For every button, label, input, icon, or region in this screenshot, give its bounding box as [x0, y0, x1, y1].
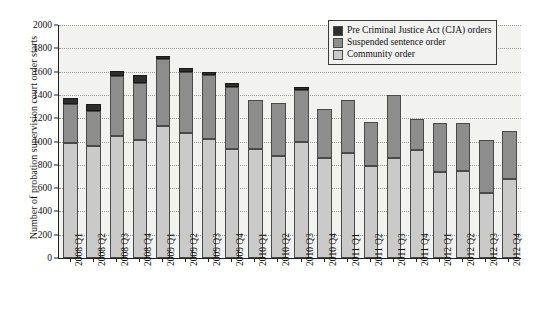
bar-chart: Number of probation supervision court or… — [0, 0, 538, 325]
x-axis-tick-mark — [508, 258, 509, 262]
x-axis-tick-label: 2010 Q4 — [328, 233, 338, 266]
y-axis-tick-label: 1400 — [33, 90, 52, 100]
x-axis-tick-label: 2008 Q2 — [97, 233, 107, 266]
y-axis-tick-label: 600 — [38, 183, 52, 193]
x-axis-tick-mark — [485, 258, 486, 262]
x-axis-tick-label: 2009 Q2 — [189, 233, 199, 266]
bar-segment[interactable] — [133, 75, 147, 84]
legend-item: Suspended sentence order — [333, 37, 491, 48]
bar-segment[interactable] — [156, 59, 170, 126]
x-axis-tick-label: 2008 Q4 — [143, 233, 153, 266]
x-axis-tick-label: 2012 Q3 — [489, 233, 499, 266]
x-axis-tick-mark — [393, 258, 394, 262]
x-axis-tick-mark — [462, 258, 463, 262]
x-axis-tick-label: 2011 Q3 — [397, 233, 407, 266]
bar-group[interactable] — [86, 25, 100, 258]
x-axis-tick-mark — [254, 258, 255, 262]
y-axis-tick-label: 1000 — [33, 137, 52, 147]
bar-segment[interactable] — [317, 109, 331, 158]
bar-group[interactable] — [110, 25, 124, 258]
x-axis-tick-label: 2010 Q3 — [305, 233, 315, 266]
x-axis-tick-label: 2010 Q1 — [258, 233, 268, 266]
y-axis-tick-label: 2000 — [33, 20, 52, 30]
bar-segment[interactable] — [156, 56, 170, 59]
bar-segment[interactable] — [248, 100, 262, 149]
bar-group[interactable] — [294, 25, 308, 258]
bar-group[interactable] — [271, 25, 285, 258]
bar-group[interactable] — [502, 25, 516, 258]
bar-segment[interactable] — [225, 87, 239, 149]
x-axis-tick-mark — [139, 258, 140, 262]
x-axis-tick-mark — [116, 258, 117, 262]
legend-label: Suspended sentence order — [347, 37, 446, 48]
legend-swatch-cja-icon — [333, 26, 343, 36]
bar-segment[interactable] — [294, 90, 308, 141]
bar-segment[interactable] — [364, 122, 378, 166]
x-axis-tick-mark — [416, 258, 417, 262]
x-axis-tick-label: 2012 Q1 — [443, 233, 453, 266]
bar-segment[interactable] — [456, 123, 470, 171]
bar-segment[interactable] — [202, 72, 216, 75]
x-axis-tick-mark — [93, 258, 94, 262]
x-axis-tick-label: 2008 Q3 — [120, 233, 130, 266]
x-axis-tick-mark — [231, 258, 232, 262]
x-axis-tick-label: 2008 Q1 — [74, 233, 84, 266]
bar-group[interactable] — [248, 25, 262, 258]
bar-group[interactable] — [156, 25, 170, 258]
legend-swatch-suspended-icon — [333, 38, 343, 48]
y-axis-tick-label: 400 — [38, 206, 52, 216]
x-axis-tick-label: 2010 Q2 — [281, 233, 291, 266]
legend: Pre Criminal Justice Act (CJA) orders Su… — [328, 20, 497, 65]
bar-segment[interactable] — [294, 87, 308, 90]
legend-item: Community order — [333, 49, 491, 60]
y-axis-tick-label: 1200 — [33, 113, 52, 123]
x-axis-tick-mark — [208, 258, 209, 262]
bar-segment[interactable] — [410, 119, 424, 149]
y-axis-tick-label: 200 — [38, 230, 52, 240]
x-axis-tick-mark — [347, 258, 348, 262]
x-axis-tick-label: 2009 Q4 — [235, 233, 245, 266]
x-axis-tick-mark — [70, 258, 71, 262]
x-axis-tick-label: 2011 Q2 — [374, 233, 384, 266]
x-axis-tick-label: 2009 Q1 — [166, 233, 176, 266]
bar-segment[interactable] — [387, 95, 401, 158]
bar-segment[interactable] — [341, 100, 355, 153]
bar-segment[interactable] — [271, 103, 285, 156]
bar-segment[interactable] — [179, 72, 193, 133]
x-axis-tick-mark — [324, 258, 325, 262]
x-axis-tick-mark — [185, 258, 186, 262]
legend-item: Pre Criminal Justice Act (CJA) orders — [333, 25, 491, 36]
x-axis-tick-mark — [439, 258, 440, 262]
bar-group[interactable] — [133, 25, 147, 258]
x-axis-tick-mark — [162, 258, 163, 262]
bar-segment[interactable] — [133, 83, 147, 140]
bar-group[interactable] — [179, 25, 193, 258]
y-axis-tick-label: 1800 — [33, 43, 52, 53]
x-axis-tick-label: 2011 Q1 — [351, 233, 361, 266]
bar-segment[interactable] — [63, 98, 77, 104]
legend-label: Pre Criminal Justice Act (CJA) orders — [347, 25, 491, 36]
bar-group[interactable] — [63, 25, 77, 258]
bar-segment[interactable] — [86, 104, 100, 111]
bar-group[interactable] — [225, 25, 239, 258]
x-axis-tick-mark — [301, 258, 302, 262]
bar-segment[interactable] — [225, 83, 239, 87]
bar-segment[interactable] — [202, 75, 216, 139]
y-axis-tick-label: 1600 — [33, 67, 52, 77]
x-axis-tick-label: 2009 Q3 — [212, 233, 222, 266]
x-axis-tick-mark — [277, 258, 278, 262]
y-axis-tick-label: 800 — [38, 160, 52, 170]
bar-segment[interactable] — [86, 111, 100, 147]
bar-group[interactable] — [202, 25, 216, 258]
x-axis-tick-label: 2011 Q4 — [420, 233, 430, 266]
bar-segment[interactable] — [110, 71, 124, 76]
bar-segment[interactable] — [179, 68, 193, 72]
x-axis-tick-mark — [370, 258, 371, 262]
x-axis-tick-label: 2012 Q4 — [512, 233, 522, 266]
bar-segment[interactable] — [63, 104, 77, 143]
bar-segment[interactable] — [479, 140, 493, 193]
bar-segment[interactable] — [433, 123, 447, 173]
y-axis-tick-label: 0 — [47, 253, 52, 263]
bar-segment[interactable] — [110, 76, 124, 136]
bar-segment[interactable] — [502, 131, 516, 179]
